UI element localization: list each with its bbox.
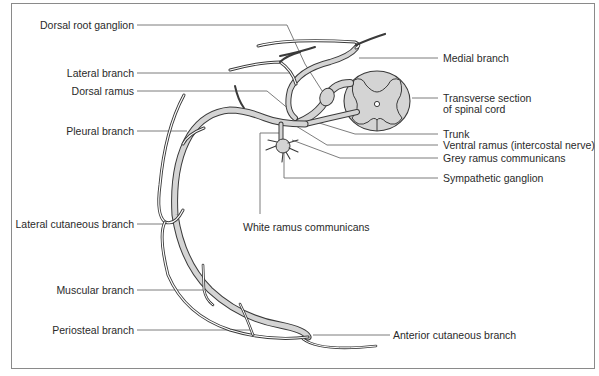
label-pleural-branch: Pleural branch — [20, 125, 134, 137]
spinal-cord — [344, 71, 410, 131]
leader-lines — [137, 25, 438, 335]
label-muscular-branch: Muscular branch — [20, 284, 134, 296]
nerve-diagram — [0, 0, 599, 376]
label-lateral-branch: Lateral branch — [20, 67, 134, 79]
label-periosteal-branch: Periosteal branch — [20, 324, 134, 336]
label-sympathetic-ganglion: Sympathetic ganglion — [443, 172, 543, 184]
label-lateral-cutaneous-branch: Lateral cutaneous branch — [10, 218, 134, 230]
label-transverse-section-line2: of spinal cord — [443, 103, 505, 115]
label-ventral-ramus: Ventral ramus (intercostal nerve) — [443, 139, 595, 151]
label-white-ramus-communicans: White ramus communicans — [243, 221, 370, 233]
label-dorsal-ramus: Dorsal ramus — [20, 85, 134, 97]
label-dorsal-root-ganglion: Dorsal root ganglion — [20, 19, 134, 31]
label-medial-branch: Medial branch — [443, 52, 509, 64]
label-anterior-cutaneous-branch: Anterior cutaneous branch — [393, 329, 516, 341]
label-grey-ramus-communicans: Grey ramus communicans — [443, 152, 566, 164]
